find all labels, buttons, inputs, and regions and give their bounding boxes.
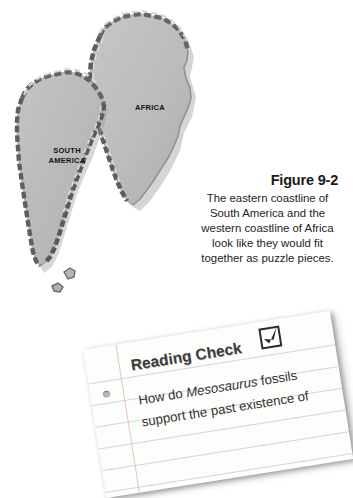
continental-fit-illustration: AFRICA SOUTH AMERICA <box>0 0 230 320</box>
figure-caption-text: The eastern coastline of South America a… <box>196 191 341 266</box>
south-america-shape-group <box>17 69 108 273</box>
reading-check-heading: Reading Check <box>130 339 243 374</box>
notebook-paper: Reading Check How do Mesosaurus fossils … <box>83 311 353 498</box>
question-prefix: How do <box>137 385 187 407</box>
notebook-hole-punch <box>103 390 111 398</box>
notebook-rule-line <box>102 431 349 471</box>
figure-caption-block: Figure 9-2 The eastern coastline of Sout… <box>196 172 341 266</box>
island-piece-group <box>52 268 75 292</box>
island-piece-small <box>52 283 63 292</box>
figure-title: Figure 9-2 <box>196 172 341 189</box>
reading-check-note: Reading Check How do Mesosaurus fossils … <box>83 311 353 498</box>
notebook-rule-line <box>105 453 352 493</box>
checkbox-checked-icon <box>258 325 284 351</box>
island-piece <box>64 268 75 279</box>
